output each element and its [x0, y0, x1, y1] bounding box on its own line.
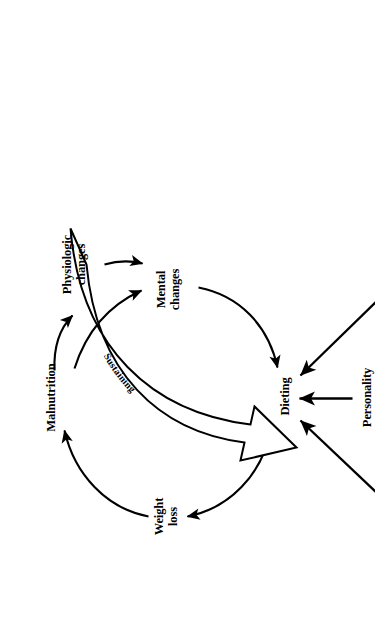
figure-root: Sustaining: [0, 0, 375, 620]
arrow-societal-to-dieting: [300, 228, 375, 375]
cycle-node-weight-loss: Weight loss: [152, 488, 179, 544]
diagram-arrows: Sustaining: [0, 0, 375, 620]
arrow-physiologic-to-mental: [104, 261, 142, 264]
arrow-mental-to-dieting: [198, 287, 277, 367]
arrow-genetic-to-dieting: [300, 420, 375, 563]
cycle-node-mental-changes: Mental changes: [154, 258, 181, 320]
cycle-node-physiologic-changes: Physiologic changes: [60, 228, 87, 300]
arrow-weight-loss-to-malnutrition: [64, 430, 148, 516]
cycle-node-malnutrition: Malnutrition: [44, 360, 58, 434]
cycle-node-dieting: Dieting: [278, 368, 292, 424]
diagram-canvas: Sustaining: [0, 0, 375, 620]
sustaining-hollow-arrow: [70, 228, 296, 460]
node-personality-change: Personality change: [360, 362, 375, 432]
